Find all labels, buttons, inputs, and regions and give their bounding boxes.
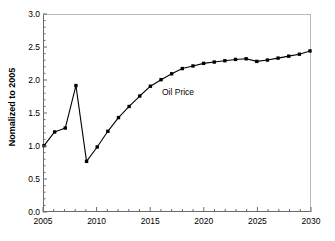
data-point-marker [276, 56, 279, 59]
plot-area [43, 14, 311, 212]
data-point-marker [213, 60, 216, 63]
series-line [44, 51, 310, 161]
y-tick-label: 1.0 [18, 142, 40, 151]
data-point-marker [223, 59, 226, 62]
x-tick-label: 2005 [34, 216, 53, 226]
data-point-marker [106, 130, 109, 133]
data-point-marker [138, 94, 141, 97]
data-point-marker [191, 64, 194, 67]
y-tick-label: 0.0 [18, 208, 40, 217]
data-point-marker [149, 85, 152, 88]
data-point-marker [117, 116, 120, 119]
y-tick-label: 2.5 [18, 43, 40, 52]
y-axis-tick-labels: 0.00.51.01.52.02.53.0 [18, 0, 40, 213]
y-tick-label: 2.0 [18, 76, 40, 85]
y-tick-label: 0.5 [18, 175, 40, 184]
y-axis-title-label: Nomalized to 2005 [7, 67, 17, 146]
x-tick-label: 2020 [194, 216, 213, 226]
data-point-marker [64, 126, 67, 129]
x-axis-tick-labels: 200520102015202020252030 [43, 216, 311, 232]
data-point-marker [287, 54, 290, 57]
annotation-oil-price: Oil Price [162, 87, 194, 97]
data-point-marker [234, 58, 237, 61]
y-tick-label: 1.5 [18, 109, 40, 118]
data-point-marker [202, 62, 205, 65]
data-point-marker [127, 105, 130, 108]
data-point-marker [298, 53, 301, 56]
data-point-marker [255, 60, 258, 63]
data-point-marker [266, 58, 269, 61]
data-point-marker [85, 160, 88, 163]
data-point-marker [159, 78, 162, 81]
x-tick-label: 2030 [302, 216, 321, 226]
data-point-marker [244, 57, 247, 60]
data-point-marker [170, 72, 173, 75]
data-point-marker [308, 49, 311, 52]
data-point-marker [53, 130, 56, 133]
series-oil-price [44, 15, 310, 211]
x-tick-label: 2010 [87, 216, 106, 226]
data-point-marker [96, 145, 99, 148]
y-tick-label: 3.0 [18, 10, 40, 19]
x-tick-label: 2015 [141, 216, 160, 226]
oil-price-chart: Nomalized to 2005 0.00.51.01.52.02.53.0 … [0, 0, 335, 241]
x-tick-label: 2025 [248, 216, 267, 226]
data-point-marker [181, 67, 184, 70]
data-point-marker [74, 84, 77, 87]
data-point-marker [42, 144, 45, 147]
